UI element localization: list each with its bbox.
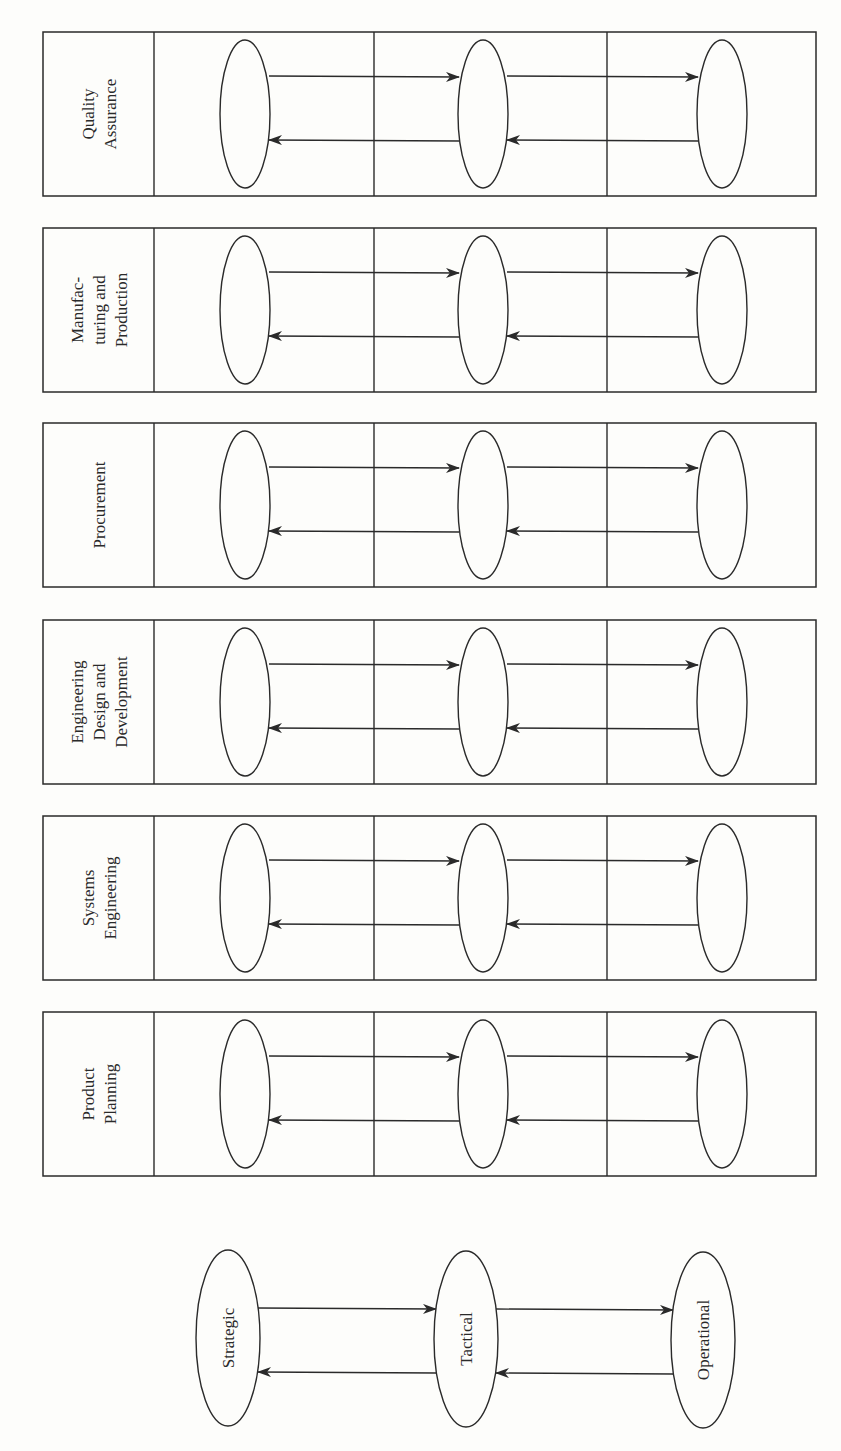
downward-flow-arrow — [269, 860, 459, 861]
upward-flow-arrow — [507, 728, 698, 729]
upward-flow-arrow — [258, 1372, 436, 1373]
level-node-operational — [697, 431, 747, 579]
level-node-strategic — [220, 824, 270, 972]
function-label: QualityAssurance — [79, 79, 120, 150]
upward-flow-arrow — [269, 1120, 459, 1121]
function-row: Procurement — [43, 423, 816, 587]
downward-flow-arrow — [507, 860, 698, 861]
level-node-strategic — [220, 431, 270, 579]
downward-flow-arrow — [507, 664, 698, 665]
upward-flow-arrow — [269, 728, 459, 729]
function-row: EngineeringDesign andDevelopment — [43, 620, 816, 784]
upward-flow-arrow — [507, 140, 698, 141]
upward-flow-arrow — [507, 336, 698, 337]
upward-flow-arrow — [507, 531, 698, 532]
downward-flow-arrow — [507, 76, 698, 77]
upward-flow-arrow — [269, 924, 459, 925]
function-label: Manufac-turing andProduction — [68, 272, 131, 347]
level-node-operational — [697, 236, 747, 384]
legend-label-strategic: Strategic — [219, 1307, 238, 1368]
level-node-operational — [697, 824, 747, 972]
downward-flow-arrow — [507, 467, 698, 468]
function-label: EngineeringDesign andDevelopment — [68, 656, 131, 748]
downward-flow-arrow — [507, 1056, 698, 1057]
upward-flow-arrow — [507, 1120, 698, 1121]
level-node-strategic — [220, 1020, 270, 1168]
function-row: ProductPlanning — [43, 1012, 816, 1176]
level-node-operational — [697, 40, 747, 188]
level-node-tactical — [458, 824, 508, 972]
level-node-strategic — [220, 236, 270, 384]
function-row: Manufac-turing andProduction — [43, 228, 816, 392]
function-label: ProductPlanning — [79, 1063, 120, 1124]
level-node-tactical — [458, 628, 508, 776]
downward-flow-arrow — [507, 272, 698, 273]
function-row: SystemsEngineering — [43, 816, 816, 980]
downward-flow-arrow — [269, 76, 459, 77]
upward-flow-arrow — [269, 140, 459, 141]
function-label: SystemsEngineering — [79, 856, 120, 940]
level-legend: StrategicTacticalOperational — [196, 1250, 735, 1428]
downward-flow-arrow — [258, 1308, 436, 1309]
level-node-operational — [697, 1020, 747, 1168]
legend-label-operational: Operational — [694, 1300, 713, 1381]
upward-flow-arrow — [507, 924, 698, 925]
function-row: QualityAssurance — [43, 32, 816, 196]
upward-flow-arrow — [496, 1373, 673, 1374]
level-node-operational — [697, 628, 747, 776]
level-node-tactical — [458, 431, 508, 579]
level-node-tactical — [458, 1020, 508, 1168]
upward-flow-arrow — [269, 336, 459, 337]
function-label: Procurement — [90, 461, 109, 548]
level-node-strategic — [220, 40, 270, 188]
downward-flow-arrow — [269, 664, 459, 665]
level-node-tactical — [458, 236, 508, 384]
downward-flow-arrow — [269, 467, 459, 468]
level-node-tactical — [458, 40, 508, 188]
downward-flow-arrow — [496, 1309, 673, 1310]
level-node-strategic — [220, 628, 270, 776]
downward-flow-arrow — [269, 1056, 459, 1057]
legend-label-tactical: Tactical — [457, 1312, 476, 1366]
upward-flow-arrow — [269, 531, 459, 532]
downward-flow-arrow — [269, 272, 459, 273]
functional-levels-diagram: QualityAssuranceManufac-turing andProduc… — [0, 0, 841, 1451]
